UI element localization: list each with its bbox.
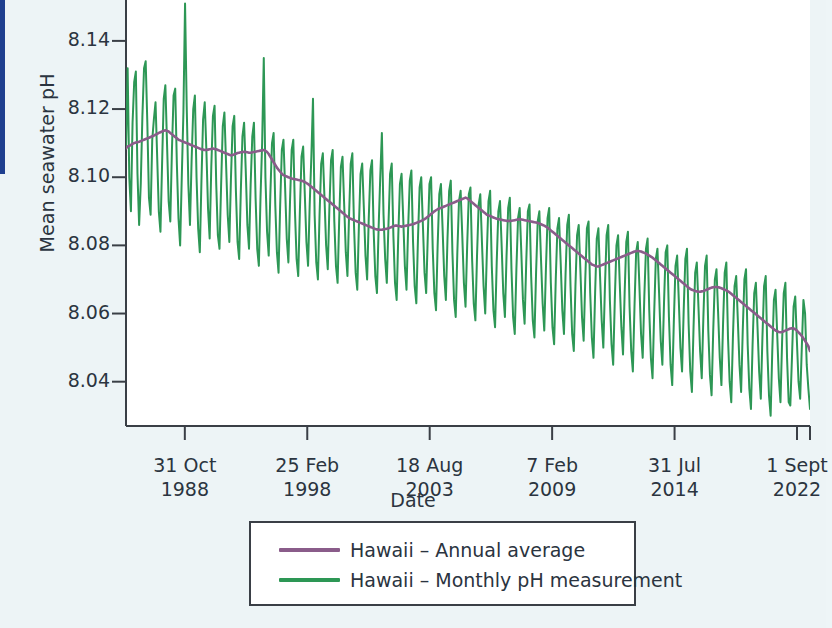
y-axis-ticks <box>112 41 126 382</box>
chart-legend: Hawaii – Annual average Hawaii – Monthly… <box>249 521 636 606</box>
legend-item-monthly-measurement: Hawaii – Monthly pH measurement <box>279 567 682 593</box>
legend-label-annual-average: Hawaii – Annual average <box>350 539 585 561</box>
legend-item-annual-average: Hawaii – Annual average <box>279 537 585 563</box>
x-axis-title: Date <box>0 489 826 511</box>
x-axis-ticks <box>185 426 797 440</box>
legend-label-monthly-measurement: Hawaii – Monthly pH measurement <box>350 569 682 591</box>
legend-swatch-monthly-measurement <box>279 578 340 582</box>
legend-swatch-annual-average <box>279 548 340 552</box>
